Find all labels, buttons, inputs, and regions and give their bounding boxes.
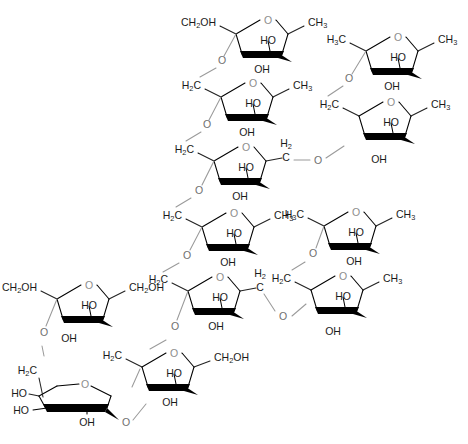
link-3-oxygen-label: O (314, 154, 322, 166)
structure-canvas: O CH2OH CH3 HO OH O O (0, 0, 468, 444)
ring-3-h2c-label: H2C (175, 143, 195, 157)
link-1: O (200, 34, 236, 77)
ring-1-ch3-label: CH3 (308, 16, 327, 30)
ring-2-oh-label: OH (239, 126, 255, 138)
link-1-oxygen-label: O (218, 54, 226, 66)
ring-6-oh-label: OH (220, 256, 236, 268)
ring-11-oh-label: OH (162, 396, 178, 408)
ring-6-oxygen-label: O (230, 207, 238, 219)
ring-6-ho-label: HO (226, 227, 242, 239)
link-3: O (294, 146, 344, 166)
ring-12-oh-label: OH (79, 416, 95, 428)
ring-4-oxygen-label: O (394, 31, 402, 43)
ring-12-oxygen-label: O (81, 378, 89, 390)
ring-5-ho-label: HO (383, 116, 399, 128)
ring-8-ho-label: HO (348, 226, 364, 238)
ring-3-h2-top-label: H2 (280, 137, 292, 151)
ring-5-oh-label: OH (371, 153, 387, 165)
ring-2-oxygen-label: O (249, 77, 257, 89)
ring-10-ch2oh-right-label: CH2OH (129, 281, 164, 295)
ring-6-h2c-label: H2C (163, 209, 183, 223)
link-5-oxygen-label: O (195, 184, 203, 196)
ring-10: O CH2OH CH2OH HO OH (2, 279, 164, 344)
ring-7-oxygen-label: O (216, 271, 224, 283)
ring-9: O H2C CH3 HO OH (272, 270, 403, 337)
ring-4-ho-label: HO (390, 51, 406, 63)
chemical-structure-figure: O CH2OH CH3 HO OH O O (0, 0, 468, 444)
link-4-oxygen-label: O (345, 72, 353, 84)
ring-7-oh-label: OH (208, 320, 224, 332)
ring-4-oh-label: OH (384, 80, 400, 92)
ring-5-h2c-label: H2C (320, 98, 340, 112)
link-11-oxygen-label: O (122, 416, 130, 428)
ring-11: O H2C CH2OH HO OH (103, 347, 249, 408)
ring-11-oxygen-label: O (170, 347, 178, 359)
ring-5-oxygen-label: O (387, 96, 395, 108)
ring-5: O H2C CH3 HO OH (320, 96, 451, 165)
ring-9-h2c-label: H2C (272, 272, 292, 286)
ring-8-h3c-label: H3C (285, 208, 305, 222)
link-9: O (150, 291, 188, 349)
ring-1-ho-label: HO (260, 34, 276, 46)
ring-12: O HO HO OH H2C (11, 364, 119, 428)
ring-12-ho-upper-label: HO (11, 387, 27, 399)
ring-9-ho-label: HO (335, 290, 351, 302)
link-7-oxygen-label: O (279, 310, 287, 322)
ring-7-h2-top-label: H2 (254, 267, 266, 281)
ring-3-oxygen-label: O (242, 141, 250, 153)
ring-7-ho-label: HO (212, 291, 228, 303)
ring-10-ch2oh-left-label: CH2OH (2, 281, 37, 295)
ring-1: O CH2OH CH3 HO OH (181, 14, 327, 75)
link-2: O (186, 97, 221, 141)
link-10-oxygen-label: O (40, 326, 48, 338)
ring-5-ch3-label: CH3 (431, 98, 450, 112)
ring-2-ho-label: HO (245, 97, 261, 109)
ring-3: O H2C H2 C HO OH (175, 137, 292, 202)
ring-9-oxygen-label: O (339, 270, 347, 282)
ring-12-h2c-label: H2C (18, 364, 38, 378)
ring-3-ho-label: HO (238, 161, 254, 173)
ring-10-oxygen-label: O (85, 279, 93, 291)
ring-8-ch3-label: CH3 (396, 208, 415, 222)
link-9-oxygen-label: O (171, 320, 179, 332)
link-10: O (40, 299, 57, 356)
ring-3-c-label: C (282, 151, 290, 163)
ring-8-oxygen-label: O (352, 206, 360, 218)
ring-2-ch3-label: CH3 (293, 79, 312, 93)
ring-11-h2c-label: H2C (103, 349, 123, 363)
ring-1-ch2oh-label: CH2OH (181, 16, 216, 30)
ring-12-ho-lower-label: HO (13, 404, 29, 416)
link-8: O (292, 226, 324, 270)
link-8-oxygen-label: O (309, 247, 317, 259)
ring-1-oh-label: OH (254, 63, 270, 75)
ring-10-ho-label: HO (81, 299, 97, 311)
ring-7: O H2C H2 C HO OH (149, 267, 266, 332)
link-6: O (163, 227, 202, 272)
ring-1-oxygen-label: O (264, 14, 272, 26)
link-4: O (328, 51, 366, 96)
ring-4-ch3-label: CH3 (438, 33, 457, 47)
link-2-oxygen-label: O (203, 118, 211, 130)
link-11: O (122, 404, 146, 428)
ring-9-oh-label: OH (325, 325, 341, 337)
ring-8: O H3C CH3 HO OH (285, 206, 416, 267)
link-5: O (176, 161, 214, 207)
ring-7-c-label: C (256, 281, 264, 293)
ring-4-h3c-label: H3C (327, 33, 347, 47)
link-7: O (264, 294, 306, 322)
ring-12-skeleton (39, 384, 111, 412)
ring-2: O H2C CH3 HO OH (182, 77, 313, 138)
ring-2-h2c-label: H2C (182, 79, 202, 93)
ring-3-oh-label: OH (232, 190, 248, 202)
ring-8-oh-label: OH (346, 255, 362, 267)
ring-11-ch2oh-label: CH2OH (214, 351, 249, 365)
ring-9-ch3-label: CH3 (383, 272, 402, 286)
caption-strip (0, 428, 468, 444)
ring-10-oh-label: OH (61, 332, 77, 344)
link-6-oxygen-label: O (183, 249, 191, 261)
ring-11-ho-label: HO (166, 367, 182, 379)
